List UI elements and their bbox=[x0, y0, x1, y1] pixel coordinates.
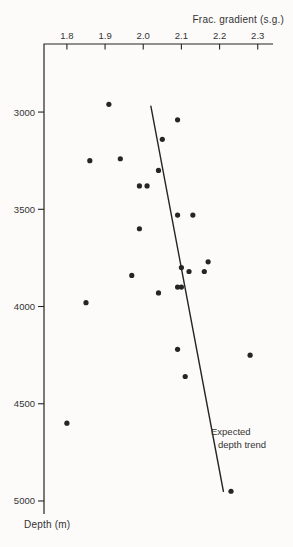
data-point bbox=[118, 156, 123, 161]
data-point bbox=[106, 102, 111, 107]
y-axis-title: Depth (m) bbox=[24, 519, 70, 530]
y-tick-label: 3000 bbox=[14, 107, 35, 118]
chart-canvas: 1.81.92.02.12.22.330003500400045005000 bbox=[0, 0, 293, 547]
x-tick-label: 2.2 bbox=[213, 30, 226, 41]
x-tick-label: 2.0 bbox=[137, 30, 150, 41]
data-point bbox=[179, 284, 184, 289]
data-point bbox=[228, 489, 233, 494]
trend-line-annotation: Expected depth trend bbox=[211, 425, 271, 452]
data-point bbox=[137, 226, 142, 231]
x-axis-title: Frac. gradient (s.g.) bbox=[193, 14, 284, 25]
data-point bbox=[175, 213, 180, 218]
y-tick-label: 4000 bbox=[14, 301, 35, 312]
data-point bbox=[206, 259, 211, 264]
data-point bbox=[248, 353, 253, 358]
frac-gradient-depth-chart: 1.81.92.02.12.22.330003500400045005000 F… bbox=[0, 0, 293, 547]
x-tick-label: 2.1 bbox=[175, 30, 188, 41]
data-point bbox=[190, 213, 195, 218]
y-tick-label: 3500 bbox=[14, 204, 35, 215]
data-point bbox=[144, 183, 149, 188]
data-point bbox=[129, 273, 134, 278]
data-point bbox=[183, 374, 188, 379]
data-point bbox=[156, 290, 161, 295]
data-point bbox=[137, 183, 142, 188]
data-point bbox=[179, 265, 184, 270]
trend-annotation-line1: Expected bbox=[211, 425, 271, 438]
data-point bbox=[202, 269, 207, 274]
data-point bbox=[175, 347, 180, 352]
trend-annotation-line2: depth trend bbox=[211, 438, 271, 451]
data-point bbox=[87, 158, 92, 163]
y-tick-label: 4500 bbox=[14, 398, 35, 409]
y-tick-label: 5000 bbox=[14, 495, 35, 506]
data-point bbox=[186, 269, 191, 274]
x-tick-label: 1.8 bbox=[60, 30, 73, 41]
data-point bbox=[175, 117, 180, 122]
x-tick-label: 1.9 bbox=[98, 30, 111, 41]
x-tick-label: 2.3 bbox=[251, 30, 264, 41]
data-point bbox=[64, 421, 69, 426]
data-point bbox=[156, 168, 161, 173]
data-point bbox=[160, 137, 165, 142]
data-point bbox=[83, 300, 88, 305]
